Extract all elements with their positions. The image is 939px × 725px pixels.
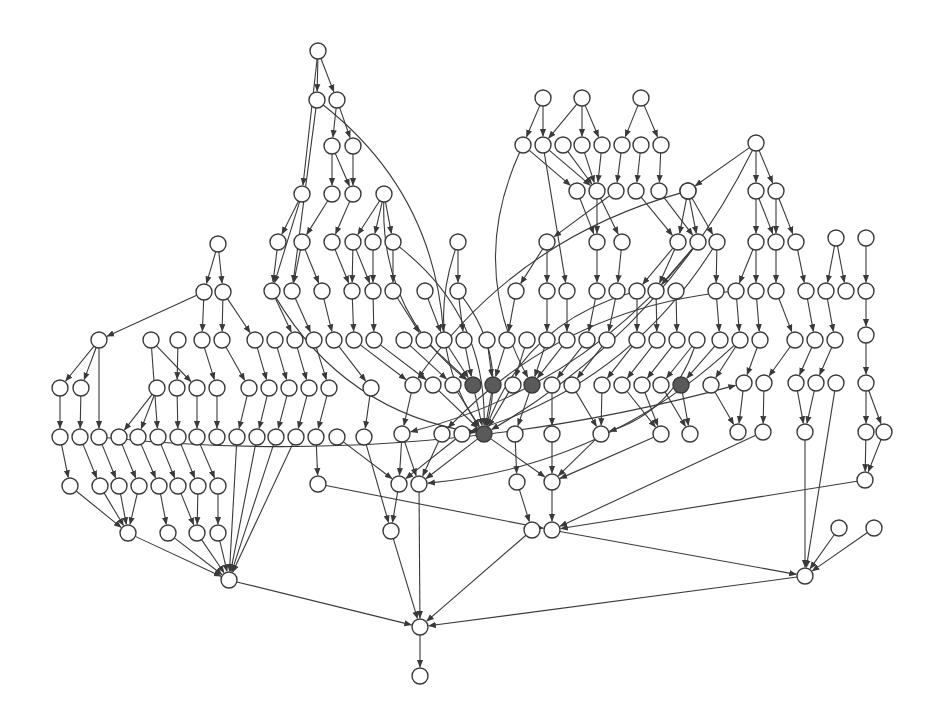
edge-f30-g28 bbox=[769, 346, 790, 375]
graph-node-f1 bbox=[143, 332, 159, 348]
edge-b6-b12 bbox=[584, 153, 594, 183]
edge-e0-f3 bbox=[202, 300, 203, 331]
graph-node-a5 bbox=[294, 186, 310, 202]
edge-f28-g26 bbox=[716, 347, 736, 378]
graph-node-f15 bbox=[456, 332, 472, 348]
graph-node-j6 bbox=[544, 522, 560, 538]
edge-d11-e15 bbox=[643, 248, 673, 284]
graph-node-a4 bbox=[345, 138, 361, 154]
graph-node-a1 bbox=[309, 92, 325, 108]
graph-node-g17 bbox=[505, 377, 521, 393]
edge-i5-j2 bbox=[181, 493, 194, 524]
graph-node-b15 bbox=[651, 183, 667, 199]
graph-node-g26 bbox=[703, 377, 719, 393]
graph-node-d2 bbox=[294, 234, 310, 250]
graph-node-f32 bbox=[827, 332, 843, 348]
edge-j6-k1 bbox=[560, 531, 796, 574]
graph-node-b1 bbox=[574, 90, 590, 106]
curved-edge-e15-h19 bbox=[487, 293, 629, 425]
graph-node-h3 bbox=[111, 429, 127, 445]
graph-node-e13 bbox=[589, 283, 605, 299]
edge-a3-a7 bbox=[335, 153, 349, 185]
edge-f12-g14 bbox=[410, 345, 446, 379]
graph-node-e19 bbox=[728, 283, 744, 299]
graph-node-b14 bbox=[628, 183, 644, 199]
graph-node-f10 bbox=[346, 332, 362, 348]
graph-node-i3 bbox=[131, 478, 147, 494]
edge-g32-h29 bbox=[869, 391, 881, 424]
graph-node-e5 bbox=[344, 283, 360, 299]
graph-node-h29 bbox=[876, 424, 892, 440]
graph-node-f2 bbox=[170, 332, 186, 348]
graph-node-g13 bbox=[425, 377, 441, 393]
edge-b0-b3 bbox=[527, 105, 540, 136]
graph-node-g31 bbox=[828, 375, 844, 391]
edge-h10-k0 bbox=[231, 445, 256, 571]
graph-node-l0 bbox=[412, 619, 428, 635]
graph-node-e7 bbox=[385, 283, 401, 299]
edge-e10-f17 bbox=[509, 299, 515, 331]
graph-node-b0 bbox=[535, 90, 551, 106]
edge-e23-f32 bbox=[827, 299, 833, 331]
graph-node-g23 bbox=[634, 377, 650, 393]
graph-node-d16 bbox=[788, 234, 804, 250]
graph-node-i11 bbox=[509, 474, 525, 490]
graph-node-d1 bbox=[270, 234, 286, 250]
edge-b7-b12 bbox=[598, 153, 601, 182]
graph-node-j3 bbox=[210, 525, 226, 541]
edge-e16-f24 bbox=[656, 299, 657, 331]
edge-d2-e4 bbox=[305, 249, 319, 282]
highlighted-node-h19 bbox=[476, 426, 492, 442]
graph-node-a2 bbox=[329, 92, 345, 108]
edge-d0-e0 bbox=[207, 252, 216, 284]
edge-f10-g12 bbox=[360, 345, 405, 380]
graph-node-b8 bbox=[614, 137, 630, 153]
graph-node-a7 bbox=[345, 186, 361, 202]
graph-node-f11 bbox=[366, 332, 382, 348]
edge-d16-e22 bbox=[798, 250, 805, 282]
edge-h29-i13 bbox=[868, 439, 881, 471]
graph-node-h27 bbox=[797, 424, 813, 440]
graph-node-e4 bbox=[314, 283, 330, 299]
graph-node-f12 bbox=[396, 332, 412, 348]
edge-h4-i4 bbox=[141, 444, 155, 477]
graph-node-h9 bbox=[229, 429, 245, 445]
graph-node-e1 bbox=[215, 284, 231, 300]
edge-a7-d3 bbox=[336, 201, 350, 233]
edge-e3-f8 bbox=[295, 298, 310, 331]
graph-node-a8 bbox=[376, 186, 392, 202]
edge-f11-g13 bbox=[380, 345, 425, 380]
graph-node-c0 bbox=[748, 135, 764, 151]
edge-d12-e16 bbox=[662, 248, 693, 284]
graph-node-f19 bbox=[539, 332, 555, 348]
graph-node-d10 bbox=[614, 234, 630, 250]
edge-h14-i9 bbox=[343, 442, 391, 479]
directed-graph-diagram bbox=[0, 0, 939, 725]
edge-e14-f22 bbox=[609, 299, 616, 331]
graph-node-i12 bbox=[544, 474, 560, 490]
edge-h15-j4 bbox=[366, 445, 388, 523]
graph-node-g9 bbox=[301, 380, 317, 396]
edge-e17-f25 bbox=[676, 299, 677, 331]
edge-a0-a2 bbox=[321, 58, 334, 91]
graph-node-b9 bbox=[633, 137, 649, 153]
graph-node-d11 bbox=[670, 234, 686, 250]
graph-node-b5 bbox=[555, 137, 571, 153]
edge-f15-g15 bbox=[466, 348, 472, 376]
graph-node-d3 bbox=[324, 234, 340, 250]
edge-e8-f14 bbox=[428, 298, 441, 331]
edge-h19-i10 bbox=[426, 439, 478, 479]
edge-b1-b7 bbox=[585, 105, 598, 136]
graph-node-g5 bbox=[209, 380, 225, 396]
graph-node-d12 bbox=[690, 234, 706, 250]
graph-node-f4 bbox=[214, 332, 230, 348]
graph-node-f30 bbox=[787, 332, 803, 348]
edge-b5-b12 bbox=[568, 151, 592, 183]
graph-node-i13 bbox=[857, 472, 873, 488]
graph-node-e18 bbox=[708, 283, 724, 299]
edge-i2-j0 bbox=[121, 494, 127, 524]
graph-node-f18 bbox=[519, 332, 535, 348]
edge-j5-l0 bbox=[427, 535, 526, 621]
edge-d0-e1 bbox=[219, 252, 222, 283]
graph-node-j4 bbox=[383, 523, 399, 539]
